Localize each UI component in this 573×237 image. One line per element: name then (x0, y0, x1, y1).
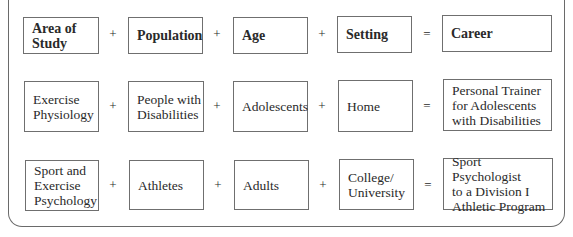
equals-operator: = (418, 177, 438, 193)
plus-operator: + (207, 26, 227, 42)
row1-age: Adolescents (233, 81, 308, 132)
row2-career: Sport Psychologist to a Division I Athle… (443, 158, 553, 210)
cell-text: Adolescents (242, 99, 308, 114)
plus-operator: + (312, 98, 332, 114)
cell-text: Sport Psychologist to a Division I Athle… (452, 154, 552, 214)
header-population: Population (128, 17, 203, 54)
cell-text: Home (347, 99, 380, 114)
cell-text: Exercise Physiology (33, 92, 94, 122)
plus-operator: + (103, 26, 123, 42)
row1-population: People with Disabilities (128, 81, 204, 132)
cell-text: Athletes (138, 178, 183, 193)
row1-career: Personal Trainer for Adolescents with Di… (443, 79, 552, 131)
cell-text: Adults (243, 178, 279, 193)
row2-setting: College/ University (339, 159, 414, 210)
row2-age: Adults (234, 160, 309, 210)
cell-text: Setting (346, 27, 388, 42)
cell-text: Sport and Exercise Psychology (34, 163, 97, 208)
header-setting: Setting (337, 16, 412, 53)
header-area-of-study: Area of Study (23, 17, 99, 54)
header-age: Age (233, 17, 308, 54)
row2-area-of-study: Sport and Exercise Psychology (25, 160, 99, 211)
cell-text: People with Disabilities (137, 92, 201, 122)
row1-area-of-study: Exercise Physiology (24, 81, 99, 132)
plus-operator: + (312, 26, 332, 42)
equals-operator: = (417, 98, 437, 114)
cell-text: Area of Study (32, 21, 76, 51)
cell-text: Population (137, 28, 202, 43)
header-career: Career (442, 15, 552, 52)
cell-text: Personal Trainer for Adolescents with Di… (452, 83, 541, 128)
plus-operator: + (208, 177, 228, 193)
cell-text: Age (242, 28, 265, 43)
plus-operator: + (207, 98, 227, 114)
equals-operator: = (417, 26, 437, 42)
plus-operator: + (313, 177, 333, 193)
row1-setting: Home (338, 80, 413, 132)
row2-population: Athletes (129, 160, 204, 210)
cell-text: College/ University (348, 170, 405, 200)
plus-operator: + (103, 98, 123, 114)
plus-operator: + (103, 177, 123, 193)
cell-text: Career (451, 26, 493, 41)
